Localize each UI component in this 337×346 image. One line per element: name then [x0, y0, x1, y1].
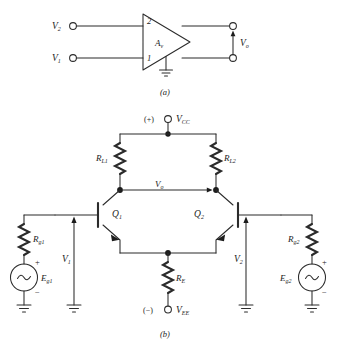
ground-icon-amp [160, 70, 173, 76]
label-rl2: RL2 [223, 153, 236, 164]
ground-icon-v1 [67, 305, 81, 312]
label-eg2-plus: + [322, 257, 327, 267]
resistor-re [163, 262, 173, 293]
label-v1-b: V1 [62, 254, 71, 265]
caption-a: (a) [160, 87, 170, 97]
circuit-figure: V2 V1 2 1 Av Vo (a) [0, 0, 337, 346]
v2-arrow-head [243, 217, 248, 224]
label-eg1-minus: − [35, 287, 40, 297]
label-v2: V2 [52, 21, 61, 32]
terminal-vcc[interactable] [165, 116, 172, 123]
ground-icon-left-source [17, 305, 31, 312]
terminal-vee[interactable] [165, 306, 172, 313]
resistor-rg2 [307, 224, 317, 255]
q1-collector-lead [103, 190, 120, 205]
terminal-vo-top[interactable] [230, 23, 237, 30]
sine-wave-icon-left [18, 275, 31, 280]
label-vee-sign: (−) [143, 306, 153, 315]
label-eg2-minus: − [322, 287, 327, 297]
sine-wave-icon-right [306, 275, 319, 280]
label-q1: Q1 [112, 209, 122, 220]
terminal-v2[interactable] [70, 23, 77, 30]
panel-b: (+) VCC (−) VEE RL1 RL2 RE Vo Q1 Q2 Rg1 … [11, 114, 328, 339]
caption-b: (b) [160, 329, 170, 339]
vo-arrow-head [231, 31, 236, 37]
terminal-vo-bottom[interactable] [230, 55, 237, 62]
panel-a: V2 V1 2 1 Av Vo (a) [52, 14, 249, 97]
v1-arrow-head [71, 217, 76, 224]
label-pin-2: 2 [147, 16, 152, 26]
label-v1: V1 [52, 53, 61, 64]
label-vcc-sign: (+) [144, 115, 154, 124]
label-rg1: Rg1 [32, 234, 45, 245]
label-eg2: Eg2 [279, 273, 292, 284]
label-vcc: VCC [176, 114, 191, 125]
label-eg1: Eg1 [40, 273, 53, 284]
label-vee: VEE [176, 305, 189, 316]
resistor-rg1 [19, 224, 29, 255]
q2-collector-lead [216, 190, 233, 205]
label-rl1: RL1 [95, 153, 108, 164]
label-av: Av [154, 38, 164, 49]
label-q2: Q2 [194, 209, 204, 220]
label-eg1-plus: + [35, 257, 40, 267]
ground-icon-v2 [239, 305, 253, 312]
resistor-rl2 [211, 143, 221, 174]
circuit-svg: V2 V1 2 1 Av Vo (a) [0, 0, 337, 346]
label-v2-b: V2 [234, 254, 243, 265]
label-rg2: Rg2 [287, 234, 300, 245]
vo-span-arrow-head [207, 188, 213, 193]
label-pin-1: 1 [147, 53, 151, 63]
label-re: RE [175, 273, 186, 284]
terminal-v1[interactable] [70, 55, 77, 62]
resistor-rl1 [115, 143, 125, 174]
label-vo-a: Vo [240, 38, 249, 49]
label-vo-b: Vo [155, 179, 164, 190]
ground-icon-right-source [305, 305, 319, 312]
